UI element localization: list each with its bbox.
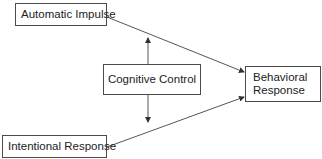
node-automatic-impulse: Automatic Impulse: [15, 3, 107, 26]
node-label: Automatic Impulse: [21, 8, 116, 21]
node-label-line-1: Behavioral: [253, 71, 307, 84]
node-label: Intentional Response: [8, 140, 116, 153]
node-behavioral-response: Behavioral Response: [245, 66, 321, 102]
edge-intentional-to-behavioral: [107, 97, 244, 147]
node-label: Cognitive Control: [108, 73, 196, 86]
node-label-line-2: Response: [253, 84, 305, 97]
node-intentional-response: Intentional Response: [2, 135, 107, 158]
node-cognitive-control: Cognitive Control: [103, 64, 201, 95]
